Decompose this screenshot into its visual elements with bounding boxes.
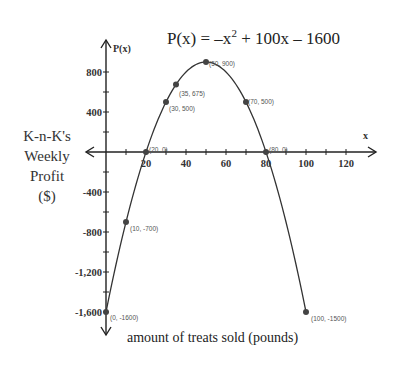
equation-title: P(x) = –x2 + 100x – 1600	[167, 27, 340, 48]
y-axis-name: P(x)	[113, 43, 131, 55]
y-tick-label: 800	[86, 67, 102, 78]
svg-text:($): ($)	[38, 188, 56, 205]
point-label: (30, 500)	[169, 105, 195, 113]
data-point	[103, 309, 109, 315]
y-tick-label: -400	[83, 187, 102, 198]
point-label: (100, -1500)	[311, 315, 346, 323]
x-tick-label: 120	[338, 158, 354, 169]
point-label: (80, 0)	[269, 146, 288, 154]
data-point	[123, 219, 129, 225]
point-label: (0, -1600)	[110, 314, 138, 322]
svg-text:Profit: Profit	[30, 168, 65, 184]
y-tick-label: -800	[83, 227, 102, 238]
x-axis-name: x	[363, 130, 368, 141]
data-point	[303, 309, 309, 315]
profit-parabola-chart: P(x) = –x2 + 100x – 1600 K-n-K's Weekly …	[0, 0, 395, 367]
axes	[86, 40, 376, 335]
svg-text:Weekly: Weekly	[24, 148, 70, 164]
y-tick-label: 400	[86, 107, 102, 118]
svg-text:K-n-K's: K-n-K's	[23, 128, 71, 144]
labeled-points: (0, -1600)(10, -700)(20, 0)(30, 500)(35,…	[103, 59, 346, 323]
point-label: (50, 900)	[209, 60, 235, 68]
axis-ticks: 20406080100120800400-400-800-1,200-1,600	[75, 67, 354, 318]
y-tick-label: -1,600	[75, 307, 102, 318]
point-label: (35, 675)	[179, 90, 205, 98]
x-axis-title: amount of treats sold (pounds)	[127, 330, 298, 346]
x-tick-label: 60	[221, 158, 232, 169]
point-label: (20, 0)	[149, 146, 168, 154]
x-tick-label: 100	[298, 158, 314, 169]
point-label: (70, 500)	[248, 98, 274, 106]
y-axis-title: K-n-K's Weekly Profit ($)	[23, 128, 71, 205]
point-label: (10, -700)	[130, 225, 158, 233]
data-point	[173, 82, 179, 88]
parabola-curve	[106, 62, 306, 312]
x-tick-label: 40	[181, 158, 192, 169]
y-tick-label: -1,200	[75, 267, 102, 278]
